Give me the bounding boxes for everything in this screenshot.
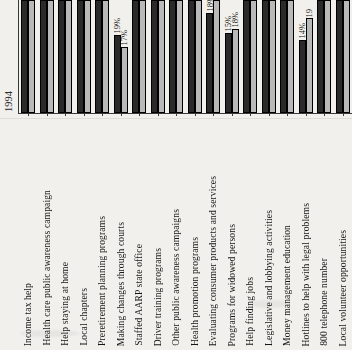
bar-group (93, 0, 112, 113)
x-axis-tick (47, 113, 48, 116)
category-label: Other public awareness campaigns (171, 209, 181, 346)
bar-group (167, 0, 186, 113)
x-axis-tick (102, 113, 103, 116)
bar-group (130, 0, 149, 113)
category-label: Legislative and lobbying activities (264, 210, 274, 346)
bar-series-light (139, 0, 146, 113)
category-label: Evaluating consumer products and service… (208, 176, 218, 346)
category-label: 800 telephone number (319, 258, 329, 346)
category-label: Local volunteer opportunities (338, 230, 348, 346)
x-axis-tick (343, 113, 344, 116)
x-axis-tick (176, 113, 177, 116)
category-label: Local chapters (79, 288, 89, 346)
x-axis-tick (121, 113, 122, 116)
bar-series-dark: 18% (206, 13, 213, 113)
axis-tick-year-label: 1994 (3, 91, 15, 112)
x-axis-tick (287, 113, 288, 116)
bar-series-light (195, 0, 202, 113)
bar-series-light (65, 0, 72, 113)
category-label: Staffed AARP state office (134, 244, 144, 346)
x-axis-tick (195, 113, 196, 116)
bar-group (38, 0, 57, 113)
category-label: Money management education (282, 225, 292, 346)
category-labels-container: Income tax helpHealth care public awaren… (0, 117, 352, 350)
bar-series-dark (40, 0, 47, 113)
bar-series-light (324, 0, 331, 113)
bar-series-light: 19 (306, 18, 313, 113)
bar-series-light (28, 0, 35, 113)
bar-group (75, 0, 94, 113)
bar-series-light (47, 0, 54, 113)
bar-group (241, 0, 260, 113)
bar-series-dark (262, 0, 269, 113)
category-label: Programs for widowed persons (227, 224, 237, 346)
bar-group (19, 0, 38, 113)
bar-series-light (176, 0, 183, 113)
bar-series-dark: 15% (225, 33, 232, 113)
category-label: Income tax help (23, 283, 33, 346)
bar-group (334, 0, 352, 113)
category-label: Health care public awareness campaign (42, 190, 52, 346)
bar-series-light (269, 0, 276, 113)
category-label: Health promotion programs (190, 237, 200, 346)
x-axis-tick (84, 113, 85, 116)
bar-series-dark (243, 0, 250, 113)
bar-series-dark (188, 0, 195, 113)
bar-series-dark (95, 0, 102, 113)
bar-series-dark (58, 0, 65, 113)
category-label: Preretirement planning programs (97, 216, 107, 346)
bar-series-dark (21, 0, 28, 113)
category-label: Making changes through courts (116, 222, 126, 346)
category-label: Hotlines to help with legal problems (301, 203, 311, 347)
bar-series-dark: 19% (114, 35, 121, 113)
x-axis-tick (28, 113, 29, 116)
bar-series-light (84, 0, 91, 113)
bar-series-light (102, 0, 109, 113)
bar-series-light (250, 0, 257, 113)
bar-group (149, 0, 168, 113)
scan-artifact (250, 300, 290, 308)
bar-groups-container: 19%17%18%215%18%14%19 (19, 0, 352, 113)
bar-series-dark (151, 0, 158, 113)
bar-series-dark (280, 0, 287, 113)
bar-series-light (158, 0, 165, 113)
x-axis-tick (269, 113, 270, 116)
x-axis-tick (213, 113, 214, 116)
bar-series-dark (336, 0, 343, 113)
bar-series-light: 17% (121, 47, 128, 113)
category-label: Driver training programs (153, 248, 163, 346)
page-edge-line (0, 118, 352, 119)
x-axis-tick (232, 113, 233, 116)
bar-group (56, 0, 75, 113)
bar-group (186, 0, 205, 113)
bar-value-label: 17% (119, 30, 129, 46)
x-axis-tick (139, 113, 140, 116)
bar-group (260, 0, 279, 113)
x-axis-tick (324, 113, 325, 116)
bar-series-light (287, 0, 294, 113)
x-axis-line (18, 113, 352, 114)
bar-series-dark: 14% (299, 40, 306, 113)
bar-value-label: 19 (304, 9, 314, 18)
bar-value-label: 18% (230, 12, 240, 28)
bar-group: 14%19 (297, 0, 316, 113)
scan-artifact (20, 330, 80, 337)
x-axis-tick (158, 113, 159, 116)
bar-group (315, 0, 334, 113)
x-axis-tick (306, 113, 307, 116)
bar-group: 19%17% (112, 0, 131, 113)
category-label: Help finding jobs (245, 277, 255, 346)
bar-series-light: 2 (213, 0, 220, 113)
x-axis-tick (65, 113, 66, 116)
bar-series-dark (169, 0, 176, 113)
bar-series-dark (132, 0, 139, 113)
bar-series-dark (317, 0, 324, 113)
bar-group (278, 0, 297, 113)
bar-series-light (343, 0, 350, 113)
bar-series-light: 18% (232, 29, 239, 113)
bar-series-dark (77, 0, 84, 113)
bar-group: 18%2 (204, 0, 223, 113)
x-axis-tick (250, 113, 251, 116)
chart-plot-area: 1994 19%17%18%215%18%14%19 (0, 0, 352, 117)
bar-group: 15%18% (223, 0, 242, 113)
